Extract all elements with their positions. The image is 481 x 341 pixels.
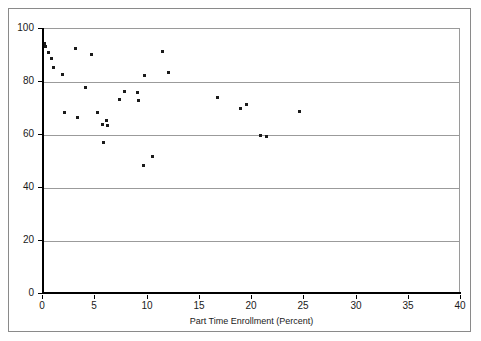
x-tick-label-10: 10 [141, 301, 152, 311]
x-tick-label-35: 35 [402, 301, 413, 311]
x-tick-label-20: 20 [245, 301, 256, 311]
x-tick-label-15: 15 [193, 301, 204, 311]
x-axis-title: Part Time Enrollment (Percent) [42, 316, 461, 326]
x-tick-label-25: 25 [297, 301, 308, 311]
x-tick-mark-15 [199, 295, 200, 299]
x-tick-mark-35 [408, 295, 409, 299]
x-tick-mark-10 [147, 295, 148, 299]
x-tick-label-0: 0 [39, 301, 45, 311]
x-tick-mark-5 [94, 295, 95, 299]
x-tick-mark-25 [303, 295, 304, 299]
x-axis-ticks: 0510152025303540 [0, 0, 481, 341]
x-tick-label-40: 40 [454, 301, 465, 311]
x-tick-mark-0 [42, 295, 43, 299]
x-tick-label-30: 30 [350, 301, 361, 311]
chart-page: 020406080100 0510152025303540 Part Time … [0, 0, 481, 341]
x-tick-mark-20 [251, 295, 252, 299]
x-tick-mark-30 [356, 295, 357, 299]
x-tick-label-5: 5 [91, 301, 97, 311]
x-tick-mark-40 [460, 295, 461, 299]
